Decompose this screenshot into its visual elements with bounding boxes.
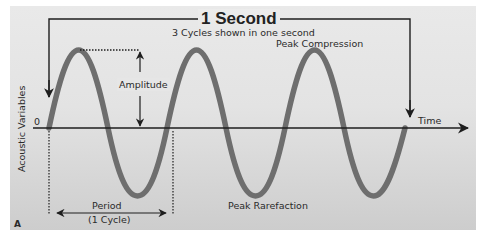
x-axis-label: Time — [418, 115, 441, 126]
period-label: Period — [92, 200, 122, 211]
diagram-title: 1 Second — [198, 9, 280, 29]
peak-rarefaction-label: Peak Rarefaction — [228, 200, 308, 211]
diagram-subtitle: 3 Cycles shown in one second — [172, 27, 315, 38]
peak-compression-label: Peak Compression — [276, 38, 363, 49]
amplitude-label: Amplitude — [117, 78, 170, 91]
sine-wave — [49, 50, 405, 196]
panel-letter: A — [14, 219, 21, 229]
period-subtitle: (1 Cycle) — [88, 214, 130, 225]
y-axis-label: Acoustic Variables — [16, 86, 27, 172]
origin-label: 0 — [34, 116, 40, 127]
